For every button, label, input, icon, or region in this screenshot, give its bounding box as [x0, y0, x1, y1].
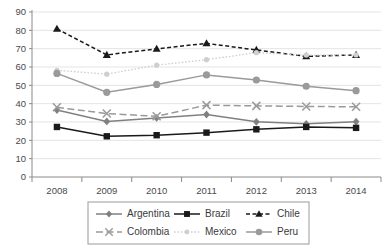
legend-label: Colombia: [127, 226, 170, 237]
legend-label: Chile: [277, 208, 300, 219]
legend-item-mexico[interactable]: Mexico: [174, 226, 237, 237]
data-point-marker: [253, 126, 259, 132]
chart-legend: ArgentinaBrazilChileColombiaMexicoPeru: [88, 202, 309, 244]
data-point-marker: [203, 129, 209, 135]
x-axis-tick-label: 2011: [196, 185, 216, 196]
data-point-marker: [153, 132, 159, 138]
y-axis-tick-label: 50: [15, 80, 26, 91]
legend-label: Argentina: [127, 208, 170, 219]
x-axis-tick-labels: 2008200920102011201220132014: [46, 185, 366, 196]
series-chile: [53, 25, 360, 60]
legend-label: Mexico: [205, 226, 237, 237]
x-axis-tick-label: 2008: [46, 185, 67, 196]
x-axis-tick-label: 2009: [96, 185, 117, 196]
data-point-marker: [256, 229, 263, 236]
series-brazil: [54, 124, 360, 140]
legend-label: Brazil: [205, 208, 230, 219]
legend-item-chile[interactable]: Chile: [246, 208, 300, 219]
y-axis-tick-label: 60: [15, 61, 26, 72]
data-point-marker: [203, 111, 210, 119]
data-point-marker: [352, 87, 359, 94]
data-point-marker: [303, 124, 309, 130]
x-axis-tick-label: 2014: [346, 185, 367, 196]
legend-item-brazil[interactable]: Brazil: [174, 208, 230, 219]
data-point-marker: [353, 52, 358, 57]
legend-item-argentina[interactable]: Argentina: [96, 208, 170, 219]
line-chart: 0102030405060708090 20082009201020112012…: [0, 0, 389, 249]
y-axis-tick-label: 20: [15, 135, 26, 146]
axes: [29, 10, 381, 182]
legend-item-colombia[interactable]: Colombia: [96, 226, 170, 237]
y-axis-tick-label: 10: [15, 153, 26, 164]
x-axis-tick-label: 2012: [246, 185, 267, 196]
data-point-marker: [53, 70, 60, 77]
data-point-marker: [106, 210, 112, 217]
data-point-marker: [154, 63, 159, 68]
series-peru: [53, 70, 359, 96]
legend-item-peru[interactable]: Peru: [246, 226, 298, 237]
x-axis-tick-label: 2010: [146, 185, 167, 196]
data-point-marker: [103, 118, 110, 126]
data-point-marker: [253, 118, 260, 126]
y-axis-tick-label: 40: [15, 98, 26, 109]
y-axis-tick-label: 30: [15, 116, 26, 127]
chart-container: 0102030405060708090 20082009201020112012…: [0, 0, 389, 249]
legend-border: [88, 202, 309, 244]
data-point-marker: [104, 133, 110, 139]
y-axis-tick-labels: 0102030405060708090: [15, 6, 26, 182]
data-point-marker: [203, 71, 210, 78]
data-point-marker: [103, 89, 110, 96]
gridlines: [32, 12, 381, 159]
y-axis-tick-label: 70: [15, 43, 26, 54]
data-point-marker: [104, 72, 109, 77]
data-point-marker: [203, 39, 211, 46]
series-argentina: [54, 106, 360, 128]
data-point-marker: [353, 125, 359, 131]
data-point-marker: [185, 230, 190, 235]
data-point-marker: [54, 124, 60, 130]
y-axis-tick-label: 80: [15, 25, 26, 36]
y-axis-tick-label: 90: [15, 6, 26, 17]
x-axis-tick-label: 2013: [296, 185, 317, 196]
legend-label: Peru: [277, 226, 298, 237]
data-point-marker: [353, 118, 360, 126]
data-point-marker: [253, 76, 260, 83]
data-point-marker: [153, 81, 160, 88]
data-point-marker: [254, 50, 259, 55]
data-point-marker: [53, 25, 61, 32]
data-point-marker: [304, 52, 309, 57]
data-point-marker: [204, 57, 209, 62]
data-point-marker: [303, 83, 310, 90]
data-point-marker: [184, 211, 190, 217]
data-point-marker: [153, 45, 161, 52]
y-axis-tick-label: 0: [21, 171, 26, 182]
